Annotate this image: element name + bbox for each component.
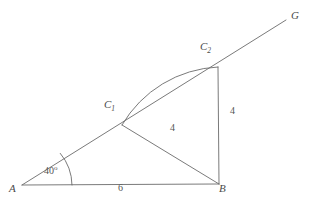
vertex-label-c1-subscript: 1 xyxy=(111,104,115,113)
segment-c1-b xyxy=(122,125,219,184)
side-length-label-c1b: 4 xyxy=(170,123,175,133)
angle-measure-label-a: 40o xyxy=(44,165,58,176)
angle-arc-at-a xyxy=(60,153,72,185)
side-length-label-c2b: 4 xyxy=(230,106,235,116)
vertex-label-g: G xyxy=(291,10,299,21)
vertex-label-a: A xyxy=(9,183,16,194)
side-length-label-ab: 6 xyxy=(118,183,123,193)
angle-measure-value: 40 xyxy=(44,165,54,176)
vertex-label-c2: C2 xyxy=(200,41,211,55)
ray-ag-through-c1-c2 xyxy=(22,20,286,185)
geometry-diagram: A B C1 C2 G 40o 6 4 4 xyxy=(0,0,310,207)
vertex-label-b: B xyxy=(219,183,226,194)
vertex-label-c2-subscript: 2 xyxy=(207,46,211,55)
construction-arc-c1-to-c2 xyxy=(122,67,218,125)
segment-c2-b xyxy=(218,67,219,184)
degree-symbol-icon: o xyxy=(54,164,58,172)
vertex-label-c1: C1 xyxy=(104,99,115,113)
